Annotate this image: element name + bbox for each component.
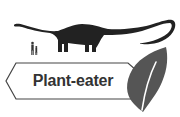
sauropod-dinosaur-icon xyxy=(14,20,175,52)
humans-scale-icon xyxy=(31,42,37,55)
diagram-canvas xyxy=(0,0,180,117)
leaf-icon xyxy=(127,47,167,112)
diet-diagram: Plant-eater xyxy=(0,0,180,117)
plant-eater-label: Plant-eater xyxy=(20,69,126,93)
